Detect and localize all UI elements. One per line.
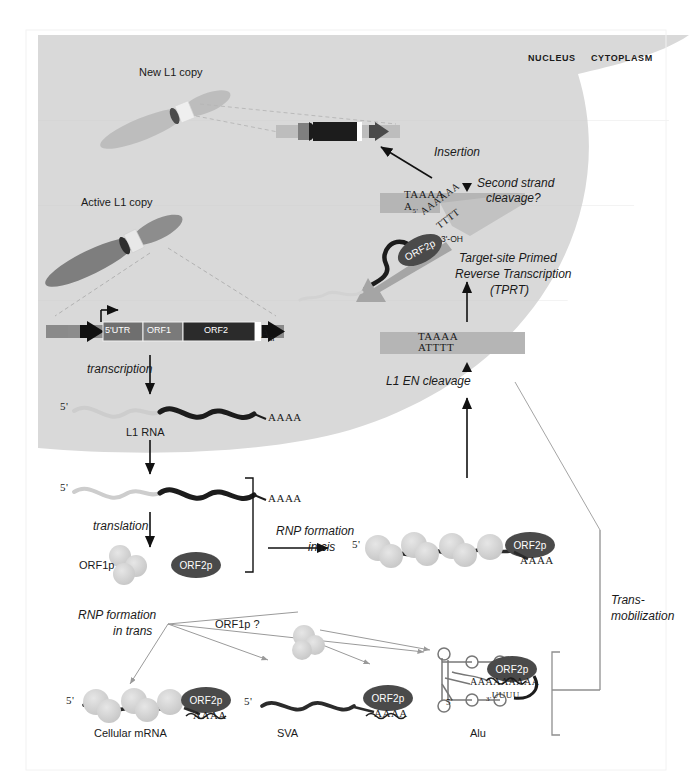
segment-orf2-label: ORF2 <box>204 325 228 335</box>
translation-label: translation <box>93 519 148 533</box>
cis-rnp-polya: AAAA <box>520 554 554 566</box>
rna-nucleus-polya: AAAA <box>268 411 302 423</box>
segment-orf1-label: ORF1 <box>147 325 171 335</box>
insertion-label: Insertion <box>434 145 480 159</box>
rnp-cis-label-2: in cis <box>308 540 335 554</box>
trans-mobilization-guide <box>515 382 600 530</box>
retrotransposition-diagram <box>0 0 689 774</box>
en-cleavage-label: L1 EN cleavage <box>386 374 471 388</box>
rnp-trans-arrows <box>130 612 430 684</box>
l1-rna-cytoplasm <box>74 489 266 500</box>
second-strand-cleavage-label-2: cleavage? <box>486 191 541 205</box>
trans-mobilization-label-1: Trans- <box>611 593 645 607</box>
orf2p-free <box>171 552 221 578</box>
tprt-label-3: (TPRT) <box>490 283 529 297</box>
three-prime-oh-label: 3'-OH <box>441 234 463 244</box>
alu-label: Alu <box>470 727 486 739</box>
tprt-label-1: Target-site Primed <box>459 251 557 265</box>
rna-cytoplasm-5prime: 5' <box>60 481 68 493</box>
trans-mobilization-bracket <box>552 530 600 735</box>
segment-5utr-label: 5'UTR <box>105 325 130 335</box>
cis-rnp-5prime: 5' <box>352 538 360 550</box>
rna-nucleus-5prime: 5' <box>60 400 68 412</box>
orf1p-trimer <box>109 545 147 585</box>
tprt-label-2: Reverse Transcription <box>455 267 571 281</box>
rnp-trans-label-1: RNP formation <box>78 608 156 622</box>
new-l1-copy-label: New L1 copy <box>139 66 203 78</box>
rnp-cis-bracket <box>245 478 253 572</box>
cellular-mrna-label: Cellular mRNA <box>94 727 167 739</box>
l1-rna-label: L1 RNA <box>126 426 165 438</box>
target-dna-bottom-strand: ATTTT <box>418 341 454 353</box>
trans-mobilization-label-2: mobilization <box>611 609 674 623</box>
rnp-cis-label-1: RNP formation <box>276 524 354 538</box>
sva-polya: AAAA <box>374 707 408 719</box>
nucleus-label: NUCLEUS <box>528 53 576 63</box>
alu-polya: AAAAAAAAA <box>470 676 540 687</box>
rna-cytoplasm-polya: AAAA <box>268 492 302 504</box>
sva-5prime: 5' <box>244 695 252 707</box>
cytoplasm-label: CYTOPLASM <box>591 53 653 63</box>
alu-polyu: 3'UUUU <box>486 690 520 703</box>
figure-canvas: NUCLEUS CYTOPLASM New L1 copy Active L1 … <box>0 0 689 774</box>
nicked-bottom-strand: A5' <box>404 200 418 215</box>
sva-label: SVA <box>277 727 298 739</box>
transcription-label: transcription <box>87 362 152 376</box>
polya-gene-label: An <box>261 327 275 343</box>
second-strand-cleavage-label-1: Second strand <box>477 176 554 190</box>
cellular-mrna-polya: AAAA <box>193 709 227 721</box>
orf1p-label: ORF1p <box>79 559 114 571</box>
cellular-mrna-5prime: 5' <box>66 694 74 706</box>
rnp-trans-label-2: in trans <box>113 624 152 638</box>
active-l1-copy-label: Active L1 copy <box>81 196 153 208</box>
orf1p-question-label: ORF1p ? <box>215 618 260 630</box>
alu-5prime: 5' <box>446 697 453 707</box>
